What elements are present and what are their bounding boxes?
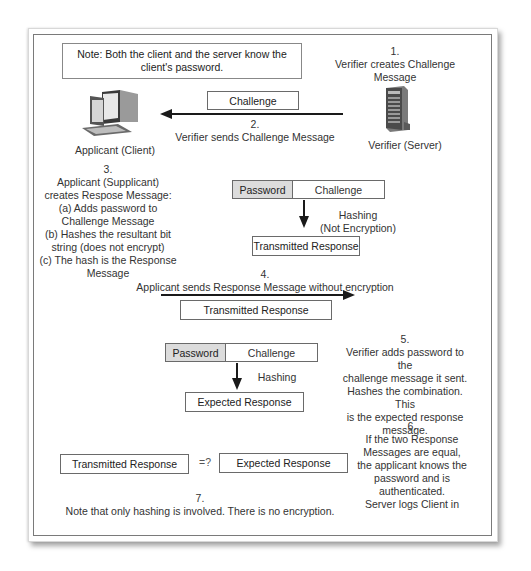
- step1-number: 1.: [330, 45, 460, 58]
- password-segment: Password: [166, 344, 226, 361]
- hashing-label-line-2: (Not Encryption): [318, 222, 398, 235]
- password-challenge-combined-server: Password Challenge: [165, 343, 318, 362]
- step1-line-2: Message: [330, 71, 460, 84]
- arrow-down-icon: [299, 216, 309, 228]
- step5-line: Verifier adds password to the: [340, 346, 470, 372]
- step1-line-1: Verifier creates Challenge: [330, 58, 460, 71]
- challenge-message-box: Challenge: [207, 91, 299, 110]
- step7-number: 7.: [60, 492, 340, 505]
- step3-line: Challenge Message: [38, 215, 178, 228]
- password-challenge-combined-client: Password Challenge: [232, 180, 385, 199]
- hashing-label-client: Hashing (Not Encryption): [318, 209, 398, 235]
- hashing-label-line-1: Hashing: [318, 209, 398, 222]
- step4-caption: 4. Applicant sends Response Message with…: [120, 268, 410, 294]
- challenge-arrow-line: [168, 113, 343, 115]
- arrow-right-icon: [343, 290, 355, 300]
- step3-line: string (does not encrypt): [38, 241, 178, 254]
- step1-caption: 1. Verifier creates Challenge Message: [330, 45, 460, 84]
- hashing-label-server: Hashing: [252, 371, 302, 384]
- transmitted-response-compare-box: Transmitted Response: [60, 454, 189, 474]
- challenge-segment: Challenge: [226, 344, 317, 361]
- transmitted-response-message-box: Transmitted Response: [180, 300, 332, 320]
- step2-number: 2.: [170, 118, 340, 131]
- step6-line: Messages are equal,: [352, 446, 472, 459]
- arrow-down-icon: [232, 378, 242, 390]
- note-line-2: client's password.: [141, 61, 224, 74]
- step3-line: Applicant (Supplicant): [38, 176, 178, 189]
- step3-line: (c) The hash is the Response: [38, 254, 178, 267]
- step6-line: Server logs Client in: [352, 498, 472, 511]
- server-tower-icon: [382, 86, 412, 132]
- step6-caption: 6. If the two Response Messages are equa…: [352, 420, 472, 511]
- step6-line: password and is: [352, 472, 472, 485]
- step6-number: 6.: [352, 420, 472, 433]
- step4-number: 4.: [120, 268, 410, 281]
- step2-caption: 2. Verifier sends Challenge Message: [170, 118, 340, 144]
- step3-line: creates Respose Message:: [38, 189, 178, 202]
- step3-line: (a) Adds password to: [38, 202, 178, 215]
- step3-caption: 3. Applicant (Supplicant) creates Respos…: [38, 163, 178, 280]
- step7-caption: 7. Note that only hashing is involved. T…: [60, 492, 340, 518]
- expected-response-box-server: Expected Response: [185, 392, 304, 412]
- step4-text: Applicant sends Response Message without…: [120, 281, 410, 294]
- step3-line: (b) Hashes the resultant bit: [38, 228, 178, 241]
- response-arrow-line: [161, 294, 345, 296]
- password-segment: Password: [233, 181, 293, 198]
- step3-number: 3.: [38, 163, 178, 176]
- server-label: Verifier (Server): [355, 139, 455, 152]
- step6-line: If the two Response: [352, 433, 472, 446]
- note-line-1: Note: Both the client and the server kno…: [77, 48, 287, 61]
- note-box: Note: Both the client and the server kno…: [62, 43, 302, 79]
- equality-operator: =?: [193, 456, 217, 469]
- step2-text: Verifier sends Challenge Message: [170, 131, 340, 144]
- client-label: Applicant (Client): [60, 144, 170, 157]
- step6-line: authenticated.: [352, 485, 472, 498]
- step6-line: the applicant knows the: [352, 459, 472, 472]
- step5-line: challenge message it sent.: [340, 372, 470, 385]
- desktop-computer-icon: [80, 88, 150, 140]
- transmitted-response-box-client: Transmitted Response: [252, 236, 360, 256]
- step7-text: Note that only hashing is involved. Ther…: [60, 505, 340, 518]
- expected-response-compare-box: Expected Response: [219, 453, 348, 473]
- step5-line: Hashes the combination. This: [340, 385, 470, 411]
- step5-number: 5.: [340, 333, 470, 346]
- challenge-segment: Challenge: [293, 181, 384, 198]
